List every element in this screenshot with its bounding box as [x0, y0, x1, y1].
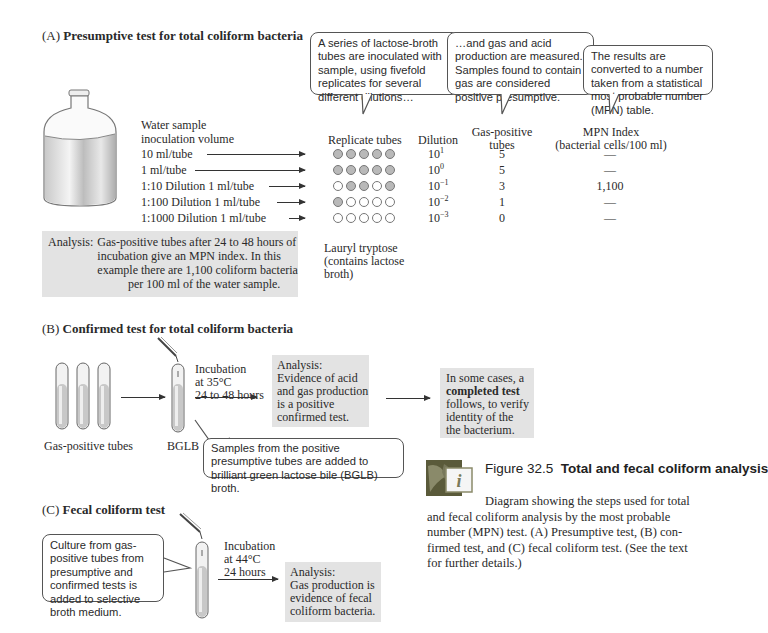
- dilution-exponent: −2: [440, 194, 449, 203]
- callout-bglb-text: Samples from the positive presumptive tu…: [211, 442, 378, 494]
- volume-header-line1: Water sample: [141, 118, 234, 132]
- dilution-value: 101: [428, 146, 444, 162]
- gas-negative-tube-icon: [346, 213, 356, 223]
- gas-negative-tube-icon: [333, 181, 343, 191]
- medium-label: Lauryl tryptose (contains lactose broth): [324, 242, 404, 281]
- water-sample-bottle-icon: [40, 88, 120, 208]
- replicate-tubes: [333, 149, 398, 159]
- gas-positive-tube-icon: [372, 165, 382, 175]
- analysis-b-line: confirmed test.: [277, 411, 364, 424]
- gas-positive-tubes-icon: [54, 362, 114, 432]
- gas-positive-tube-icon: [359, 181, 369, 191]
- analysis-box-b: Analysis: Evidence of acid and gas produ…: [272, 355, 369, 427]
- incubation-c: Incubation at 44°C 24 hours: [224, 540, 275, 579]
- inoculation-volume: 1:10 Dilution 1 ml/tube: [141, 179, 254, 194]
- inoculation-volume: 10 ml/tube: [141, 147, 193, 162]
- replicate-tubes: [333, 213, 398, 223]
- callout-fecal-culture-text: Culture from gas-positive tubes from pre…: [50, 539, 144, 618]
- fecal-test-tube-icon: [178, 512, 218, 622]
- caption-line: Diagram showing the steps used for total: [427, 494, 727, 510]
- callout-pointer: [499, 94, 519, 116]
- figure-title: Figure 32.5 Total and fecal coliform ana…: [485, 461, 768, 476]
- dilution-base: 10: [428, 179, 440, 193]
- caption-line: firmed test, and (C) fecal coliform test…: [427, 541, 727, 557]
- section-a-title-text: Presumptive test for total coliform bact…: [63, 28, 303, 43]
- gas-positive-tube-icon: [346, 165, 356, 175]
- gas-positive-tube-icon: [359, 165, 369, 175]
- callout-fecal-culture: Culture from gas-positive tubes from pre…: [42, 534, 164, 602]
- dilution-value: 10−1: [428, 178, 449, 194]
- gas-negative-tube-icon: [346, 197, 356, 207]
- analysis-a-text: Gas-positive tubes after 24 to 48 hours …: [97, 235, 298, 277]
- volume-header-line2: inoculation volume: [141, 132, 234, 146]
- dilution-value: 10−3: [428, 210, 449, 226]
- section-b-title-text: Confirmed test for total coliform bacter…: [63, 321, 293, 336]
- gas-positive-count: 1: [468, 195, 536, 210]
- gas-positive-count: 3: [468, 179, 536, 194]
- figure-caption: Diagram showing the steps used for total…: [427, 494, 727, 572]
- arrow-to-tubes: [289, 218, 305, 219]
- completed-test-box: In some cases, a completed test follows,…: [440, 368, 534, 438]
- mpn-index-value: 1,100: [560, 179, 660, 194]
- gas-negative-tube-icon: [385, 197, 395, 207]
- replicate-tubes: [333, 181, 398, 191]
- dilution-exponent: 0: [440, 162, 444, 171]
- analysis-a-content: Analysis: Gas-positive tubes after 24 to…: [48, 235, 292, 277]
- interactive-info-icon[interactable]: i: [426, 460, 474, 496]
- dilution-exponent: −1: [440, 178, 449, 187]
- caption-line: for further details.): [427, 556, 727, 572]
- dilution-exponent: −3: [440, 210, 449, 219]
- dilution-exponent: 1: [440, 146, 444, 155]
- section-b-letter: (B): [42, 321, 59, 336]
- volume-header: Water sample inoculation volume: [141, 118, 234, 146]
- figure-number: Figure 32.5: [485, 461, 553, 476]
- arrow-to-analysis-c: [218, 579, 278, 580]
- gas-positive-tube-icon: [359, 149, 369, 159]
- medium-line: broth): [324, 268, 404, 281]
- mpn-index-value: —: [560, 195, 660, 210]
- dilution-base: 10: [428, 147, 440, 161]
- section-c-title-text: Fecal coliform test: [63, 502, 166, 517]
- figure-title-text: Total and fecal coliform analysis: [561, 461, 768, 476]
- analysis-c-line: coliform bacteria.: [290, 605, 376, 618]
- dilution-value: 10−2: [428, 194, 449, 210]
- callout-pointer: [607, 94, 627, 116]
- gas-negative-tube-icon: [372, 213, 382, 223]
- callout-pointer: [360, 94, 380, 116]
- gas-positive-tubes-label: Gas-positive tubes: [44, 439, 133, 453]
- completed-line: the bacterium.: [446, 424, 528, 437]
- callout-gas-measured-text: …and gas and acid production are measure…: [455, 37, 583, 103]
- inoculation-volume: 1:1000 Dilution 1 ml/tube: [141, 211, 266, 226]
- analysis-a-line: Gas-positive tubes after 24 to 48 hours …: [97, 235, 298, 249]
- dilution-base: 10: [428, 211, 440, 225]
- gas-positive-tube-icon: [333, 165, 343, 175]
- analysis-a-line: incubation give an MPN index. In this: [97, 249, 298, 263]
- gas-negative-tube-icon: [372, 181, 382, 191]
- arrow-to-tubes: [269, 186, 305, 187]
- analysis-box-c: Analysis: Gas production is evidence of …: [285, 562, 381, 622]
- arrow-to-tubes: [277, 202, 305, 203]
- gas-positive-tube-icon: [385, 181, 395, 191]
- analysis-a-line: example there are 1,100 coliform bacteri…: [97, 263, 298, 277]
- dilution-base: 10: [428, 163, 440, 177]
- mpn-index-value: —: [560, 211, 660, 226]
- gas-positive-count: 0: [468, 211, 536, 226]
- mpn-index-value: —: [560, 147, 660, 162]
- inoculation-volume: 1:100 Dilution 1 ml/tube: [141, 195, 260, 210]
- gas-positive-tube-icon: [346, 149, 356, 159]
- gas-positive-count: 5: [468, 147, 536, 162]
- gas-positive-tube-icon: [333, 197, 343, 207]
- section-c-letter: (C): [42, 502, 59, 517]
- bglb-tube-icon: [150, 336, 190, 436]
- gas-positive-tube-icon: [333, 149, 343, 159]
- gas-positive-tube-icon: [372, 149, 382, 159]
- analysis-a-line: per 100 ml of the water sample.: [128, 277, 280, 291]
- inoculation-volume: 1 ml/tube: [141, 163, 187, 178]
- gas-negative-tube-icon: [385, 213, 395, 223]
- gas-positive-tube-icon: [385, 165, 395, 175]
- callout-mpn-table: The results are converted to a number ta…: [583, 45, 713, 95]
- gas-negative-tube-icon: [359, 213, 369, 223]
- section-a-letter: (A): [42, 28, 60, 43]
- caption-line: and fecal coliform analysis by the most …: [427, 510, 727, 526]
- gas-positive-count: 5: [468, 163, 536, 178]
